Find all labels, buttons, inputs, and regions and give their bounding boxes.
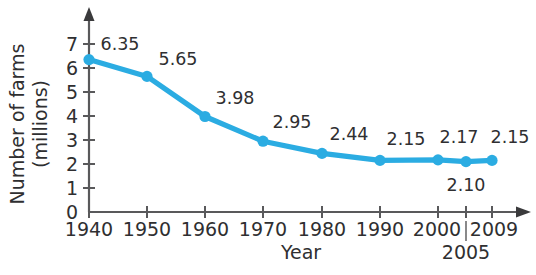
chart-canvas: 7 6 5 4 3 2 1 0 1940 1950 1960 1970 1980… [0, 0, 536, 275]
data-label-2009: 2.15 [491, 127, 530, 147]
data-point-1970 [257, 136, 268, 147]
y-tick-label-2: 2 [66, 153, 78, 175]
data-point-1990 [374, 155, 385, 166]
x-tick-label-1990: 1990 [356, 218, 404, 240]
data-label-1940: 6.35 [101, 34, 140, 54]
y-tick-label-3: 3 [66, 129, 78, 151]
data-point-2000 [432, 154, 443, 165]
y-tick-label-7: 7 [66, 33, 78, 55]
y-tick-label-1: 1 [66, 177, 78, 199]
x-axis-arrow-icon [516, 207, 531, 218]
series-markers [83, 54, 497, 167]
data-label-2005: 2.10 [447, 175, 486, 195]
data-label-1990: 2.15 [387, 129, 426, 149]
y-axis-arrow-icon [84, 7, 95, 21]
x-tick-label-2000: 2000 [413, 218, 461, 240]
data-label-1960: 3.98 [216, 88, 255, 108]
x-axis-title: Year [280, 241, 321, 263]
x-tick-label-2005: 2005 [442, 241, 490, 263]
y-axis-title-line2: (millions) [29, 80, 51, 168]
y-tick-label-6: 6 [66, 57, 78, 79]
x-tick-label-2009: 2009 [470, 218, 518, 240]
data-point-1940 [83, 54, 94, 65]
y-axis-title-line1: Number of farms [6, 44, 28, 205]
x-tick-label-1980: 1980 [298, 218, 346, 240]
data-label-2000: 2.17 [440, 127, 479, 147]
y-tick-label-4: 4 [66, 105, 78, 127]
data-label-1980: 2.44 [330, 124, 369, 144]
data-label-1970: 2.95 [273, 112, 312, 132]
y-tick-label-5: 5 [66, 81, 78, 103]
x-tick-label-1970: 1970 [239, 218, 287, 240]
data-point-1980 [316, 148, 327, 159]
farms-line-chart: 7 6 5 4 3 2 1 0 1940 1950 1960 1970 1980… [0, 0, 536, 275]
data-point-2009 [486, 155, 497, 166]
data-label-1950: 5.65 [159, 49, 198, 69]
data-point-1950 [141, 71, 152, 82]
x-tick-label-1950: 1950 [123, 218, 171, 240]
x-tick-label-1960: 1960 [181, 218, 229, 240]
x-tick-label-1940: 1940 [65, 218, 113, 240]
data-point-2005 [460, 156, 471, 167]
data-point-1960 [199, 111, 210, 122]
